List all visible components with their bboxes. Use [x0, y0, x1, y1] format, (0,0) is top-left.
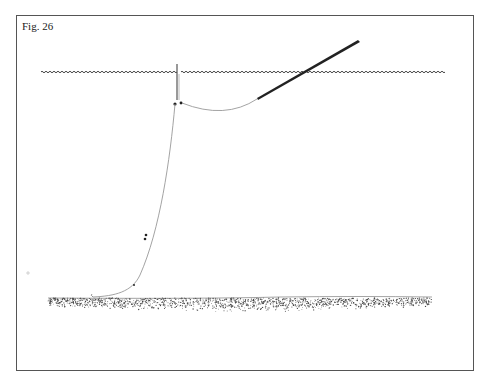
river-bed	[48, 297, 432, 312]
water-surface	[41, 71, 445, 73]
line-rod-to-float	[182, 99, 257, 111]
fishing-rig-diagram	[0, 0, 491, 384]
split-shots	[133, 234, 147, 286]
float	[173, 64, 182, 106]
rod	[257, 40, 360, 100]
line-float-to-bed	[93, 104, 175, 297]
margin-mark	[26, 271, 30, 275]
hook	[91, 294, 93, 297]
